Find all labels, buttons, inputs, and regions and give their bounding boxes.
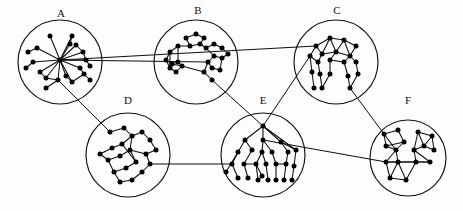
graph-node[interactable] [348,86,353,91]
graph-node[interactable] [310,70,315,75]
graph-node[interactable] [210,66,215,71]
graph-node[interactable] [384,160,389,165]
graph-node[interactable] [24,66,29,71]
graph-node[interactable] [290,178,295,183]
graph-node[interactable] [81,50,86,55]
graph-node[interactable] [342,38,347,43]
graph-node[interactable] [108,130,113,135]
graph-node[interactable] [140,130,145,135]
graph-node[interactable] [168,50,173,55]
graph-node[interactable] [230,162,235,167]
graph-node[interactable] [274,162,279,167]
graph-node[interactable] [134,160,139,165]
graph-node[interactable] [318,72,323,77]
graph-node[interactable] [144,152,149,157]
graph-node[interactable] [176,60,181,65]
cluster-C[interactable] [294,20,378,104]
graph-node[interactable] [204,46,209,51]
graph-node[interactable] [31,60,36,65]
graph-node[interactable] [328,36,333,41]
graph-node[interactable] [176,44,181,49]
graph-node[interactable] [346,74,351,79]
graph-node[interactable] [98,152,103,157]
graph-node[interactable] [292,164,297,169]
graph-node[interactable] [394,148,399,153]
cluster-E[interactable] [221,113,305,197]
graph-node[interactable] [58,58,63,63]
graph-node[interactable] [188,44,193,49]
graph-node[interactable] [250,148,255,153]
graph-node[interactable] [260,174,265,179]
graph-node[interactable] [286,150,291,155]
graph-node[interactable] [328,72,333,77]
graph-node[interactable] [396,128,401,133]
graph-node[interactable] [354,44,359,49]
graph-node[interactable] [70,80,75,85]
graph-node[interactable] [412,148,417,153]
graph-node[interactable] [414,160,419,165]
graph-node[interactable] [68,42,73,47]
graph-node[interactable] [224,170,229,175]
graph-node[interactable] [428,160,433,165]
graph-node[interactable] [236,150,241,155]
graph-node[interactable] [88,64,93,69]
graph-node[interactable] [402,140,407,145]
graph-node[interactable] [202,70,207,75]
cluster-F[interactable] [370,120,446,196]
graph-node[interactable] [342,60,347,65]
graph-node[interactable] [44,76,49,81]
graph-node[interactable] [88,78,93,83]
graph-node[interactable] [128,148,133,153]
graph-node[interactable] [334,50,339,55]
graph-node[interactable] [198,42,203,47]
graph-node[interactable] [264,162,269,167]
graph-node[interactable] [218,68,223,73]
graph-node[interactable] [356,72,361,77]
graph-node[interactable] [388,176,393,181]
graph-node[interactable] [270,150,275,155]
graph-node[interactable] [220,46,225,51]
graph-node[interactable] [236,176,241,181]
graph-node[interactable] [212,54,217,59]
graph-node[interactable] [266,178,271,183]
graph-node[interactable] [110,146,115,151]
graph-node[interactable] [38,70,43,75]
graph-node[interactable] [212,42,217,47]
graph-node[interactable] [220,56,225,61]
graph-node[interactable] [316,60,321,65]
graph-node[interactable] [354,60,359,65]
graph-node[interactable] [74,43,79,48]
graph-node[interactable] [261,124,266,129]
graph-node[interactable] [226,52,231,57]
graph-node[interactable] [396,160,401,165]
graph-node[interactable] [148,162,153,167]
graph-node[interactable] [348,54,353,59]
graph-node[interactable] [78,66,83,71]
graph-node[interactable] [174,70,179,75]
graph-node[interactable] [48,34,53,39]
graph-node[interactable] [206,60,211,65]
graph-node[interactable] [382,132,387,137]
graph-node[interactable] [44,86,49,91]
graph-node[interactable] [194,32,199,37]
cluster-A[interactable] [18,20,102,104]
graph-node[interactable] [282,178,287,183]
graph-node[interactable] [314,44,319,49]
graph-node[interactable] [184,36,189,41]
graph-node[interactable] [404,178,409,183]
graph-node[interactable] [320,86,325,91]
graph-node[interactable] [256,178,261,183]
graph-node[interactable] [120,142,125,147]
graph-node[interactable] [82,72,87,77]
graph-node[interactable] [130,134,135,139]
graph-node[interactable] [210,78,215,83]
graph-node[interactable] [279,140,284,145]
graph-node[interactable] [35,46,40,51]
graph-node[interactable] [202,36,207,41]
graph-node[interactable] [140,170,145,175]
graph-node[interactable] [284,162,289,167]
graph-node[interactable] [328,58,333,63]
graph-node[interactable] [254,162,259,167]
graph-node[interactable] [118,180,123,185]
graph-node[interactable] [148,138,153,143]
